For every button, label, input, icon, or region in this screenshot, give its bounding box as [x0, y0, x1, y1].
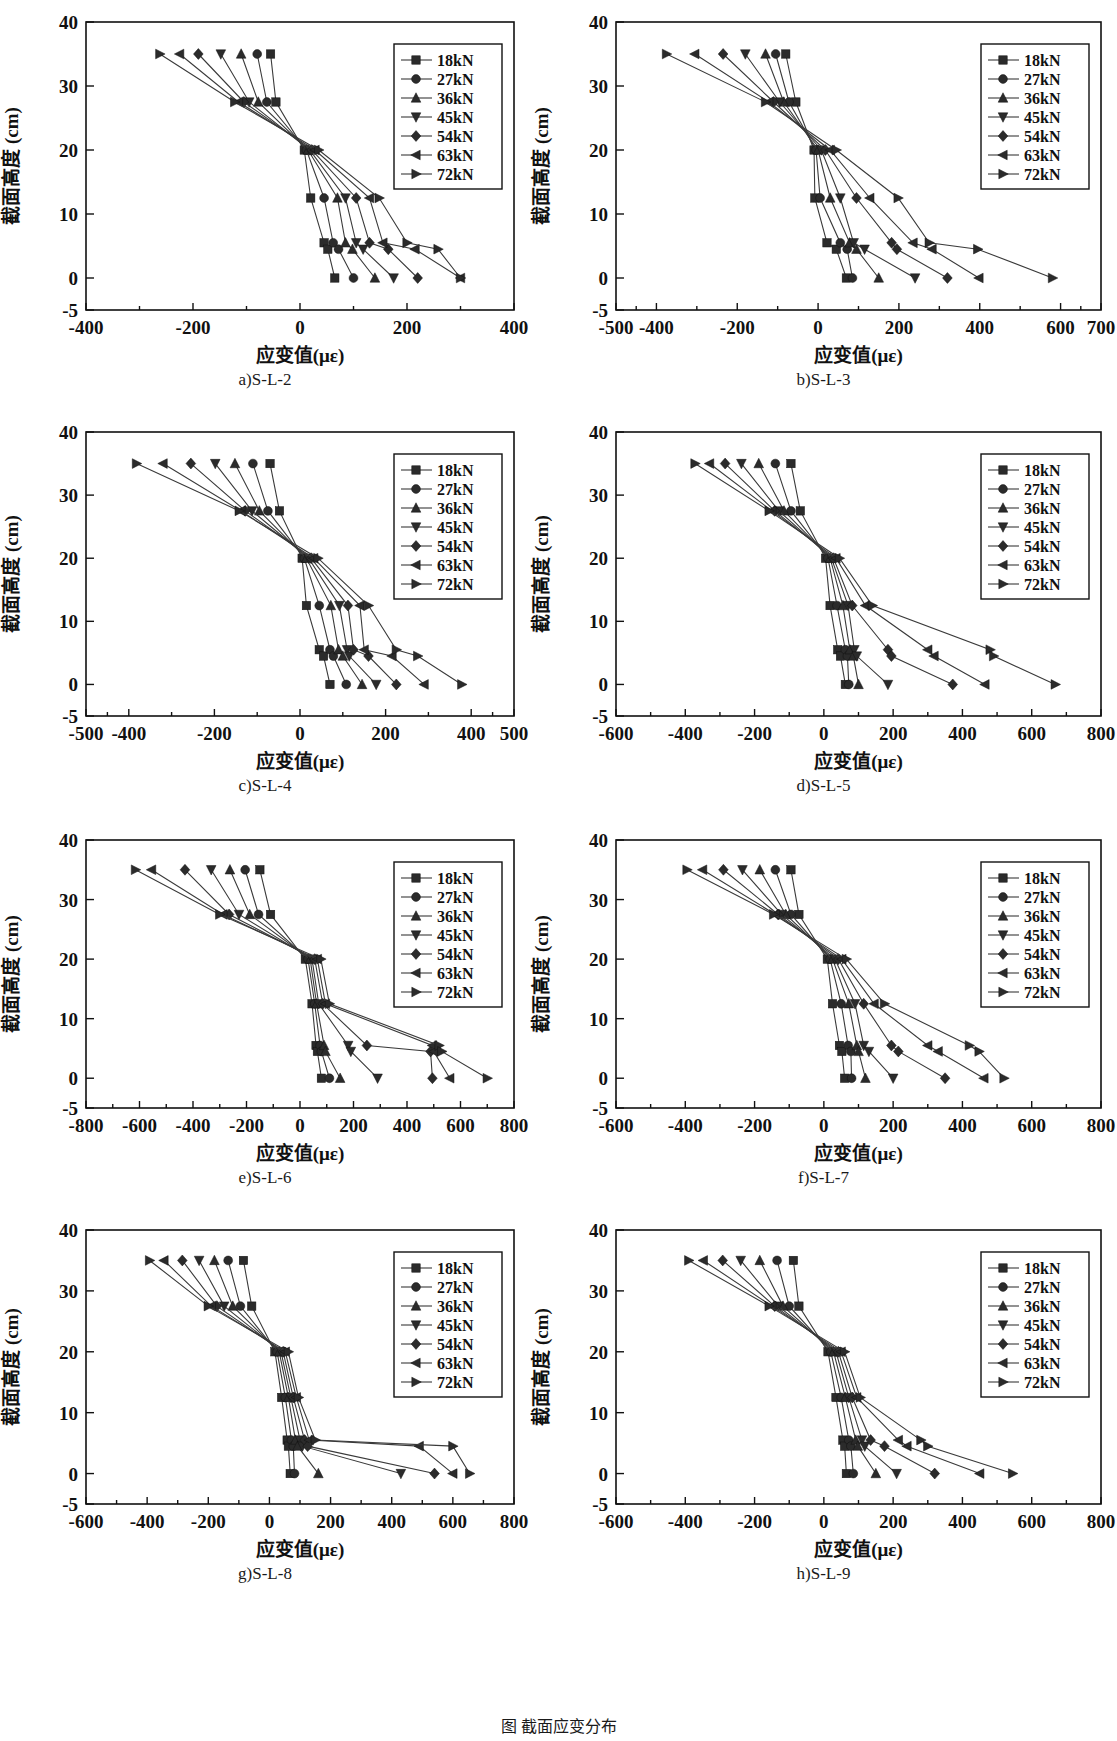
marker-square [247, 1302, 255, 1310]
x-tick-label: 800 [500, 1511, 529, 1532]
legend-label-63kN[interactable]: 63kN [437, 147, 474, 164]
legend-label-27kN[interactable]: 27kN [1024, 889, 1061, 906]
legend-label-27kN[interactable]: 27kN [1024, 1279, 1061, 1296]
legend-label-54kN[interactable]: 54kN [437, 128, 474, 145]
legend-label-54kN[interactable]: 54kN [437, 1336, 474, 1353]
legend-label-27kN[interactable]: 27kN [437, 889, 474, 906]
legend-label-18kN[interactable]: 18kN [437, 462, 474, 479]
marker-triangle-left [174, 49, 183, 59]
marker-triangle-right [894, 193, 903, 203]
marker-triangle-up [335, 1073, 345, 1082]
series-line-45kN [741, 464, 888, 685]
legend-label-36kN[interactable]: 36kN [1024, 1298, 1061, 1315]
marker-triangle-up [755, 865, 765, 874]
legend-label-36kN[interactable]: 36kN [437, 90, 474, 107]
legend-label-18kN[interactable]: 18kN [437, 870, 474, 887]
legend-label-63kN[interactable]: 63kN [437, 1355, 474, 1372]
y-tick-label: 10 [589, 1009, 608, 1030]
legend-label-27kN[interactable]: 27kN [437, 71, 474, 88]
marker-square [828, 1000, 836, 1008]
marker-circle [241, 865, 250, 874]
legend-label-63kN[interactable]: 63kN [1024, 557, 1061, 574]
y-tick-label: -5 [592, 706, 608, 727]
subplot-caption-h: h)S-L-9 [530, 1564, 1117, 1584]
subplot-caption-f: f)S-L-7 [530, 1168, 1117, 1188]
legend-label-54kN[interactable]: 54kN [1024, 946, 1061, 963]
legend-label-45kN[interactable]: 45kN [1024, 927, 1061, 944]
legend-label-18kN[interactable]: 18kN [1024, 870, 1061, 887]
marker-triangle-up [871, 1468, 881, 1477]
x-tick-label: 600 [1017, 723, 1046, 744]
legend-label-45kN[interactable]: 45kN [1024, 519, 1061, 536]
legend-label-54kN[interactable]: 54kN [1024, 128, 1061, 145]
chart-d: -600-400-2000200400600800-5010203040截面高度… [530, 410, 1117, 778]
marker-triangle-right [156, 49, 165, 59]
legend-label-72kN[interactable]: 72kN [437, 166, 474, 183]
marker-diamond [428, 1073, 438, 1084]
y-tick-label: 30 [589, 485, 608, 506]
x-tick-label: 400 [457, 723, 486, 744]
x-tick-label: -200 [737, 1511, 772, 1532]
subplot-d: -600-400-2000200400600800-5010203040截面高度… [530, 410, 1117, 818]
legend-label-54kN[interactable]: 54kN [1024, 1336, 1061, 1353]
legend-label-63kN[interactable]: 63kN [437, 557, 474, 574]
legend-label-27kN[interactable]: 27kN [1024, 71, 1061, 88]
legend-label-27kN[interactable]: 27kN [1024, 481, 1061, 498]
legend-label-54kN[interactable]: 54kN [437, 538, 474, 555]
legend-label-45kN[interactable]: 45kN [437, 109, 474, 126]
legend-label-18kN[interactable]: 18kN [1024, 52, 1061, 69]
marker-triangle-right [403, 238, 412, 248]
legend-label-54kN[interactable]: 54kN [437, 946, 474, 963]
legend-label-45kN[interactable]: 45kN [437, 1317, 474, 1334]
legend-label-36kN[interactable]: 36kN [437, 500, 474, 517]
marker-square [266, 50, 274, 58]
legend-label-45kN[interactable]: 45kN [1024, 109, 1061, 126]
legend-label-72kN[interactable]: 72kN [1024, 166, 1061, 183]
marker-circle [325, 1074, 334, 1083]
legend-label-63kN[interactable]: 63kN [1024, 1355, 1061, 1372]
x-tick-label: -400 [668, 1115, 703, 1136]
y-tick-label: 30 [59, 890, 78, 911]
legend-label-27kN[interactable]: 27kN [437, 1279, 474, 1296]
x-tick-label: -600 [122, 1115, 157, 1136]
legend-label-63kN[interactable]: 63kN [1024, 965, 1061, 982]
legend-label-18kN[interactable]: 18kN [1024, 1260, 1061, 1277]
marker-triangle-right [458, 680, 467, 690]
legend-label-18kN[interactable]: 18kN [1024, 462, 1061, 479]
legend-label-27kN[interactable]: 27kN [437, 481, 474, 498]
legend-label-36kN[interactable]: 36kN [1024, 500, 1061, 517]
legend-label-36kN[interactable]: 36kN [1024, 90, 1061, 107]
x-tick-label: 0 [819, 1115, 829, 1136]
legend-label-45kN[interactable]: 45kN [437, 927, 474, 944]
chart-a: -400-2000200400-5010203040截面高度 (cm)应变值(μ… [0, 0, 530, 372]
legend-label-63kN[interactable]: 63kN [437, 965, 474, 982]
marker-square [412, 1264, 420, 1272]
series-line-36kN [766, 54, 879, 278]
legend-label-18kN[interactable]: 18kN [437, 1260, 474, 1277]
marker-triangle-right [691, 459, 700, 469]
marker-square [999, 56, 1007, 64]
legend-label-36kN[interactable]: 36kN [1024, 908, 1061, 925]
legend-label-72kN[interactable]: 72kN [1024, 1374, 1061, 1391]
legend-label-72kN[interactable]: 72kN [1024, 984, 1061, 1001]
legend-label-72kN[interactable]: 72kN [437, 576, 474, 593]
legend-label-45kN[interactable]: 45kN [1024, 1317, 1061, 1334]
legend-label-36kN[interactable]: 36kN [437, 908, 474, 925]
marker-triangle-right [216, 910, 225, 920]
legend-label-72kN[interactable]: 72kN [1024, 576, 1061, 593]
marker-triangle-down [373, 1074, 383, 1083]
legend-label-36kN[interactable]: 36kN [437, 1298, 474, 1315]
x-tick-label: 200 [879, 723, 908, 744]
legend-label-18kN[interactable]: 18kN [437, 52, 474, 69]
x-tick-label: -200 [737, 723, 772, 744]
chart-f: -600-400-2000200400600800-5010203040截面高度… [530, 818, 1117, 1170]
marker-square [412, 466, 420, 474]
legend-label-45kN[interactable]: 45kN [437, 519, 474, 536]
subplot-a: -400-2000200400-5010203040截面高度 (cm)应变值(μ… [0, 0, 530, 410]
marker-diamond [718, 1255, 728, 1266]
legend-label-63kN[interactable]: 63kN [1024, 147, 1061, 164]
legend-label-72kN[interactable]: 72kN [437, 1374, 474, 1391]
marker-triangle-right [375, 193, 384, 203]
legend-label-72kN[interactable]: 72kN [437, 984, 474, 1001]
legend-label-54kN[interactable]: 54kN [1024, 538, 1061, 555]
